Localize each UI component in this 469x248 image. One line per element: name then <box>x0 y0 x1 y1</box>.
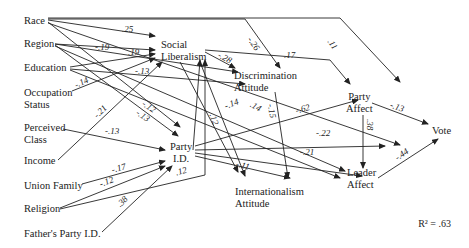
node-occupation-status: Occupation Status <box>24 87 72 110</box>
coef-label: -.21 <box>300 147 314 157</box>
node-label-line: Affect <box>346 103 373 115</box>
node-fathers-party-id: Father's Party I.D. <box>24 228 101 240</box>
coef-label: .14 <box>248 99 263 114</box>
coef-label: -.17 <box>111 161 128 174</box>
edge-partyid-leader <box>195 153 362 176</box>
coef-label: -.26 <box>246 35 263 53</box>
node-region: Region <box>24 38 54 50</box>
node-social-liberalism: Social Liberalism <box>161 39 207 62</box>
node-religion: Religion <box>24 203 60 215</box>
coef-label: .17 <box>284 50 296 60</box>
node-race: Race <box>24 15 45 27</box>
coef-label: -.15 <box>266 103 278 119</box>
coef-label: -.19 <box>95 42 110 52</box>
r-squared-label: R² = .63 <box>418 218 451 229</box>
coef-label: .38 <box>365 119 375 131</box>
node-label-line: Liberalism <box>161 51 207 63</box>
node-label-line: Social <box>161 39 207 51</box>
node-internationalism-attitude: Internationalism Attitude <box>235 186 304 209</box>
coef-label: .25 <box>122 24 134 34</box>
coef-label: -.13 <box>389 100 406 114</box>
node-label-line: Status <box>24 99 72 111</box>
coef-label: -.21 <box>92 103 109 120</box>
node-party-id: Party I.D. <box>170 141 192 164</box>
coef-label: .12 <box>208 112 221 126</box>
node-label-line: Discrimination <box>234 70 297 82</box>
node-label-line: Party <box>170 141 192 153</box>
node-union-family: Union Family <box>24 180 83 192</box>
node-label-line: I.D. <box>170 153 192 165</box>
node-income: Income <box>24 155 56 167</box>
edge-leader-vote <box>378 139 438 178</box>
node-label-line: Attitude <box>235 198 304 210</box>
node-label-line: Attitude <box>234 82 297 94</box>
node-label-line: Occupation <box>24 87 72 99</box>
coef-label: .19 <box>128 47 140 57</box>
coef-label: -.22 <box>316 128 331 138</box>
node-discrimination-attitude: Discrimination Attitude <box>234 70 297 93</box>
node-leader-affect: Leader Affect <box>347 167 376 190</box>
node-label-line: Party <box>346 91 373 103</box>
edge-partyid-vote <box>195 146 385 150</box>
edge-race-social <box>48 20 155 36</box>
node-perceived-class: Perceived Class <box>24 122 65 145</box>
node-education: Education <box>24 62 67 74</box>
node-label-line: Internationalism <box>235 186 304 198</box>
coef-label: -.14 <box>223 96 240 110</box>
node-label-line: Perceived <box>24 122 65 134</box>
coef-label: -.13 <box>135 66 150 76</box>
path-diagram: .25 -.26 .11 -.19 .19 -.13 -.14 -.12 -.1… <box>0 0 469 248</box>
node-label-line: Affect <box>347 179 376 191</box>
node-label-line: Class <box>24 134 65 146</box>
node-party-affect: Party Affect <box>346 91 373 114</box>
coef-label: .11 <box>326 37 340 51</box>
node-label-line: Leader <box>347 167 376 179</box>
coef-label: -.13 <box>105 126 120 136</box>
coef-label: -.44 <box>393 146 411 163</box>
node-vote: Vote <box>432 125 451 137</box>
coef-label: .12 <box>175 165 189 178</box>
